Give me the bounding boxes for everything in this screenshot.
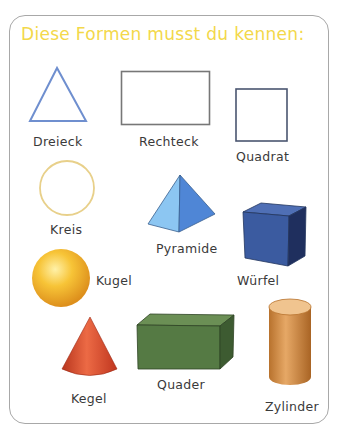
page-title: Diese Formen musst du kennen: [21,24,304,44]
triangle-shape [26,64,90,126]
pyramid-shape [146,172,218,234]
label-kugel: Kugel [96,273,132,288]
square-shape [234,87,290,143]
circle-shape [37,158,97,218]
label-kreis: Kreis [50,222,82,237]
label-zylinder: Zylinder [265,399,319,414]
sphere-shape [30,247,92,309]
label-quadrat: Quadrat [236,149,289,164]
label-wuerfel: Würfel [237,273,279,288]
cube-shape [241,200,309,268]
label-quader: Quader [157,377,205,392]
label-rechteck: Rechteck [139,134,199,149]
label-dreieck: Dreieck [33,134,83,149]
rectangle-shape [120,70,212,127]
label-kegel: Kegel [71,391,107,406]
cuboid-shape [136,311,236,373]
cylinder-shape [267,297,313,387]
label-pyramide: Pyramide [156,241,217,256]
cone-shape [60,314,120,380]
